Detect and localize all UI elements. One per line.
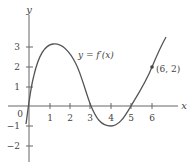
x-tick-label: 5	[128, 113, 134, 123]
y-tick-label: 1	[14, 82, 20, 92]
y-tick-label: −2	[7, 141, 20, 151]
x-tick-label: 1	[47, 113, 53, 123]
point-marker	[150, 65, 154, 69]
x-tick-label: 4	[108, 113, 114, 123]
y-axis-label: y	[25, 4, 32, 15]
y-tick-label: 3	[14, 42, 20, 52]
function-label: y = f′(x)	[77, 50, 114, 60]
x-axis-label: x	[181, 100, 187, 111]
x-tick-label: 3	[87, 113, 93, 123]
y-tick-label: −1	[7, 121, 20, 131]
x-tick-label: 6	[149, 113, 155, 123]
origin-label: 0	[17, 109, 23, 119]
chart-plot: 1 2 3 4 5 6 3 2 1 −1 −2 0 y x (6, 2) y =…	[0, 0, 192, 167]
x-tick-label: 2	[67, 113, 73, 123]
y-tick-label: 2	[14, 62, 20, 72]
point-label: (6, 2)	[156, 64, 180, 74]
